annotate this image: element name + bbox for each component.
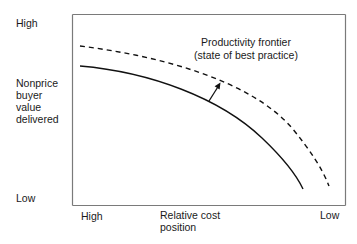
annotation-line: (state of best practice): [192, 49, 300, 62]
x-axis-high-label: High: [81, 210, 103, 222]
x-axis-title-line: Relative cost: [160, 209, 220, 221]
y-axis-title: Nonprice buyer value delivered: [16, 77, 72, 125]
annotation-line: Productivity frontier: [192, 36, 300, 49]
x-axis-title-line: position: [160, 221, 220, 233]
shift-arrow-icon: [209, 83, 221, 102]
y-axis-high-label: High: [16, 17, 38, 29]
x-axis-title: Relative cost position: [160, 209, 220, 233]
y-axis-title-line: value: [16, 101, 72, 113]
y-axis-title-line: Nonprice: [16, 77, 72, 89]
productivity-frontier-curve: [80, 46, 329, 186]
current-position-curve: [80, 66, 303, 189]
y-axis-low-label: Low: [16, 192, 35, 204]
y-axis-title-line: delivered: [16, 113, 72, 125]
y-axis-title-line: buyer: [16, 89, 72, 101]
x-axis-low-label: Low: [320, 209, 339, 221]
frontier-annotation: Productivity frontier (state of best pra…: [192, 36, 300, 62]
